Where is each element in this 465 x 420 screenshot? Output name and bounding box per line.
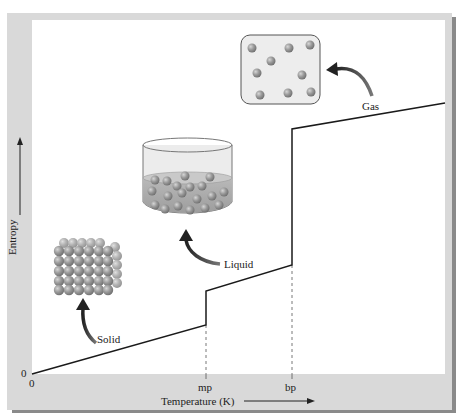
y-axis-arrow-icon bbox=[17, 137, 23, 215]
liquid-label: Liquid bbox=[224, 258, 253, 270]
gas-label: Gas bbox=[362, 100, 379, 112]
y-axis-label: Entropy bbox=[6, 220, 18, 255]
y-zero-tick: 0 bbox=[21, 367, 27, 379]
solid-arrow-icon bbox=[76, 298, 96, 343]
entropy-diagram bbox=[0, 0, 465, 420]
bp-tick-label: bp bbox=[285, 381, 296, 393]
solid-label: Solid bbox=[97, 333, 120, 345]
gas-arrow-icon bbox=[326, 62, 372, 96]
entropy-curve bbox=[32, 103, 445, 374]
mp-tick-label: mp bbox=[198, 381, 212, 393]
solid-lattice-icon bbox=[54, 238, 122, 295]
x-axis-label: Temperature (K) bbox=[161, 395, 234, 407]
x-zero-tick: 0 bbox=[29, 377, 35, 389]
gas-box-icon bbox=[241, 35, 320, 104]
liquid-arrow-icon bbox=[179, 229, 220, 264]
x-axis-arrow-icon bbox=[244, 398, 315, 404]
liquid-beaker-icon bbox=[143, 138, 232, 215]
